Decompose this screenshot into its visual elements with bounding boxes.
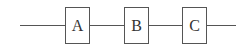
wire-a-to-b: [90, 25, 124, 26]
series-block-diagram: A B C: [0, 0, 245, 51]
wire-b-to-c: [149, 25, 182, 26]
block-b-label: B: [131, 17, 142, 35]
output-wire: [207, 25, 236, 26]
block-a-label: A: [72, 17, 84, 35]
block-c-label: C: [189, 17, 200, 35]
block-b: B: [124, 7, 149, 44]
input-wire: [20, 25, 65, 26]
block-c: C: [182, 7, 207, 44]
block-a: A: [65, 7, 90, 44]
